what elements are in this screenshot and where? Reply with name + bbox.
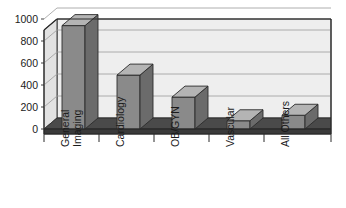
chart-canvas: 02004006008001000General Imaging: 940Car… xyxy=(0,0,346,208)
y-axis-tick-label: 1000 xyxy=(15,13,39,25)
x-axis-category-label: Imaging xyxy=(71,109,83,147)
x-axis-category-label: General xyxy=(59,110,71,147)
x-axis-category-label: All Others xyxy=(279,101,291,147)
y-axis-tick-label: 600 xyxy=(20,57,38,69)
y-axis-tick-label: 800 xyxy=(20,35,38,47)
y-axis-tick-label: 0 xyxy=(32,123,38,135)
y-axis-tick-label: 200 xyxy=(20,101,38,113)
x-axis-category-label: OB/GYN xyxy=(169,106,181,147)
axis-depth-tick xyxy=(44,8,57,19)
bar-chart-figure: 02004006008001000General Imaging: 940Car… xyxy=(0,0,346,208)
y-axis-tick-label: 400 xyxy=(20,79,38,91)
x-axis-category-label: Vascular xyxy=(224,106,236,147)
x-axis-category-label: Cardiology xyxy=(114,96,126,147)
bar-side-face xyxy=(85,15,98,129)
